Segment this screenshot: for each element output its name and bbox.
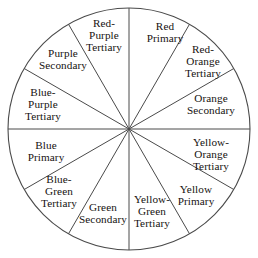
sector-label-line: Secondary [79, 214, 127, 226]
sector-label-line: Orange [185, 56, 221, 68]
color-wheel-graphic [0, 0, 258, 258]
sector-label-line: Tertiary [25, 111, 61, 123]
sector-label-line: Primary [28, 152, 65, 164]
sector-label-red-orange-tertiary: Red-OrangeTertiary [185, 44, 221, 80]
sector-label-line: Purple [86, 30, 122, 42]
sector-label-yellow-orange-tertiary: Yellow-OrangeTertiary [193, 137, 229, 173]
sector-label-purple-secondary: PurpleSecondary [39, 48, 87, 72]
sector-label-yellow-primary: YellowPrimary [178, 184, 215, 208]
sector-label-line: Tertiary [193, 161, 229, 173]
sector-label-line: Tertiary [86, 42, 122, 54]
sector-label-line: Secondary [187, 105, 235, 117]
sector-label-line: Secondary [39, 60, 87, 72]
sector-label-line: Orange [193, 149, 229, 161]
sector-label-green-secondary: GreenSecondary [79, 202, 127, 226]
sector-label-line: Tertiary [185, 68, 221, 80]
sector-label-line: Primary [147, 33, 184, 45]
sector-label-blue-green-tertiary: Blue-GreenTertiary [41, 174, 77, 210]
color-wheel-figure: RedPrimaryRed-OrangeTertiaryOrangeSecond… [0, 0, 258, 258]
sector-label-blue-primary: BluePrimary [28, 140, 65, 164]
sector-label-line: Purple [25, 99, 61, 111]
sector-label-line: Green [41, 186, 77, 198]
sector-label-line: Green [134, 206, 170, 218]
sector-label-blue-purple-tertiary: Blue-PurpleTertiary [25, 87, 61, 123]
sector-label-red-primary: RedPrimary [147, 21, 184, 45]
sector-label-line: Primary [178, 196, 215, 208]
sector-label-line: Tertiary [134, 218, 170, 230]
sector-label-orange-secondary: OrangeSecondary [187, 93, 235, 117]
sector-label-line: Tertiary [41, 198, 77, 210]
sector-label-yellow-green-tertiary: Yellow-GreenTertiary [134, 194, 170, 230]
sector-label-red-purple-tertiary: Red-PurpleTertiary [86, 18, 122, 54]
